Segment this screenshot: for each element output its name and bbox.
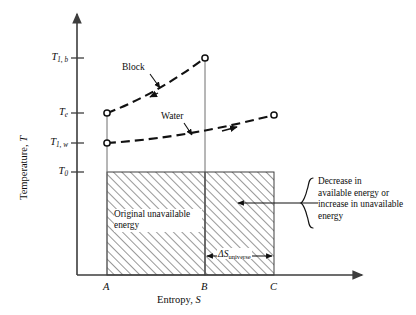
delta-s-universe-label: ΔSuniverse bbox=[217, 248, 252, 259]
water-curve-label: Water bbox=[161, 111, 183, 122]
marker-water-start bbox=[104, 140, 110, 146]
callout-line-3: increase in unavailable bbox=[318, 199, 403, 209]
curve-water bbox=[107, 115, 274, 143]
original-unavailable-energy-line2: energy bbox=[114, 220, 139, 230]
chart-canvas bbox=[0, 0, 416, 315]
y-tick-label-te: Te bbox=[28, 106, 68, 118]
y-tick-label-te-base: T bbox=[59, 106, 65, 117]
y-tick-label-t0: T0 bbox=[28, 165, 68, 177]
x-axis-title: Entropy, S bbox=[157, 294, 201, 306]
delta-s-symbol: ΔS bbox=[218, 248, 228, 259]
callout-line-2: available energy or bbox=[318, 188, 389, 198]
x-axis-title-text: Entropy, bbox=[157, 294, 195, 305]
y-tick-label-t1w: T1, w bbox=[28, 136, 68, 148]
x-tick-label-a: A bbox=[103, 281, 109, 293]
callout-line-4: energy bbox=[318, 211, 343, 221]
x-tick-label-c: C bbox=[270, 281, 277, 293]
water-label-leader bbox=[184, 123, 192, 135]
block-curve-label: Block bbox=[122, 62, 145, 73]
x-axis-title-symbol: S bbox=[195, 294, 200, 305]
block-label-leader bbox=[150, 74, 160, 88]
y-tick-label-t1b: T1, b bbox=[28, 51, 68, 63]
marker-block-start bbox=[104, 110, 110, 116]
x-tick-label-b: B bbox=[201, 281, 207, 293]
y-tick-label-t0-sub: 0 bbox=[64, 170, 68, 178]
y-axis-title: Temperature, T bbox=[18, 136, 30, 200]
y-axis-title-text: Temperature, bbox=[18, 142, 29, 200]
y-tick-label-t1b-sub: 1, b bbox=[57, 56, 68, 64]
original-unavailable-energy-line1: Original unavailable bbox=[114, 209, 190, 219]
callout-line-1: Decrease in bbox=[318, 176, 362, 186]
y-tick-label-t1w-sub: 1, w bbox=[56, 141, 68, 149]
unavailable-energy-callout: Decrease in available energy or increase… bbox=[318, 176, 414, 223]
delta-s-subscript: universe bbox=[228, 253, 250, 260]
marker-water-end bbox=[271, 112, 277, 118]
original-unavailable-energy-label: Original unavailable energy bbox=[114, 209, 202, 232]
y-tick-label-te-sub: e bbox=[65, 111, 68, 119]
y-axis-title-symbol: T bbox=[18, 136, 29, 142]
thermodynamics-ts-diagram: T1, b Te T1, w T0 A B C Temperature, T E… bbox=[0, 0, 416, 315]
marker-block-end bbox=[202, 55, 208, 61]
